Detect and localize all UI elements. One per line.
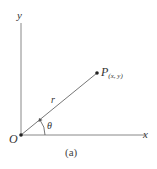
x-axis-label: x xyxy=(143,129,148,140)
figure-caption: (a) xyxy=(65,147,77,158)
point-p-dot xyxy=(95,71,99,75)
angle-arc xyxy=(40,120,45,135)
origin-label: O xyxy=(9,133,18,145)
origin-dot xyxy=(19,133,23,137)
angle-label: θ xyxy=(47,121,52,131)
polar-diagram xyxy=(0,0,157,169)
y-axis-label: y xyxy=(17,10,22,21)
radius-line xyxy=(21,73,97,135)
point-label: P(x, y) xyxy=(101,66,123,80)
radius-label: r xyxy=(51,95,55,105)
point-subscript: (x, y) xyxy=(108,72,122,80)
